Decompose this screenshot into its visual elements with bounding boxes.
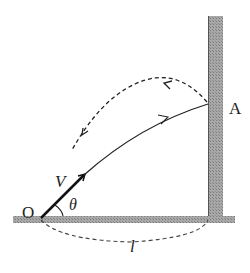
floor — [13, 216, 235, 223]
rebound-arrowhead-top — [164, 81, 172, 89]
trajectory-path — [84, 104, 208, 175]
distance-arc — [41, 220, 208, 242]
label-angle: θ — [69, 196, 77, 213]
label-wall-point: A — [229, 99, 242, 118]
wall — [208, 16, 223, 216]
label-origin: O — [22, 203, 34, 222]
rebound-path — [72, 78, 207, 150]
label-distance: l — [130, 237, 135, 256]
angle-arc — [55, 205, 63, 216]
label-velocity: V — [55, 172, 68, 191]
diagram-canvas: O V θ A l — [0, 0, 250, 273]
